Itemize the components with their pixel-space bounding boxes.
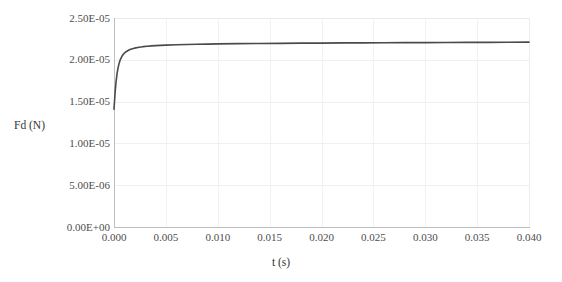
- y-axis-line: [114, 18, 115, 228]
- y-axis-tick-label: 1.00E-05: [69, 138, 110, 149]
- plot-border-top: [114, 18, 529, 19]
- y-axis-tick-label: 1.50E-05: [69, 96, 110, 107]
- gridline-vertical: [218, 18, 219, 227]
- gridline-vertical: [373, 18, 374, 227]
- y-axis-tick-label: 2.00E-05: [69, 54, 110, 65]
- gridline-vertical: [166, 18, 167, 227]
- plot-border-right: [529, 18, 530, 228]
- x-axis-line: [114, 227, 530, 228]
- y-axis-tick-label: 5.00E-06: [69, 180, 110, 191]
- y-axis-tick-label: 2.50E-05: [69, 13, 110, 24]
- gridline-vertical: [425, 18, 426, 227]
- gridline-vertical: [322, 18, 323, 227]
- x-axis-tick-label: 0.040: [499, 232, 559, 243]
- gridline-vertical: [477, 18, 478, 227]
- drag-force-vs-time-chart: 0.00E+005.00E-061.00E-051.50E-052.00E-05…: [0, 0, 562, 282]
- y-axis-title: Fd (N): [14, 119, 45, 131]
- gridline-vertical: [270, 18, 271, 227]
- x-axis-title: t (s): [0, 256, 562, 268]
